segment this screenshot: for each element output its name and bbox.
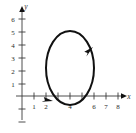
- x-axis-label: x: [126, 92, 131, 101]
- y-tick-label-1: 1: [11, 81, 15, 89]
- x-tick-label-1: 1: [32, 103, 36, 111]
- y-tick-label-4: 4: [11, 42, 15, 50]
- x-tick-label-6: 6: [92, 103, 96, 111]
- y-axis-label: y: [23, 2, 28, 11]
- y-tick-labels-group: 1 2 3 4 5 6: [11, 16, 15, 89]
- x-tick-label-8: 8: [116, 103, 120, 111]
- x-tick-label-2: 2: [44, 103, 48, 111]
- y-tick-label-2: 2: [11, 68, 15, 76]
- x-tick-label-7: 7: [104, 103, 108, 111]
- parametric-curve-group: [42, 31, 94, 105]
- y-tick-label-5: 5: [11, 29, 15, 37]
- x-axis-arrowhead: [121, 93, 127, 99]
- y-tick-label-3: 3: [11, 55, 15, 63]
- curve-direction-arrow-lower-left: [42, 97, 53, 102]
- figure-container: ): [0, 0, 136, 133]
- plot-canvas: 1 2 4 6 7 8 1 2 3 4 5 6 x y: [0, 0, 136, 133]
- y-tick-label-6: 6: [11, 16, 15, 24]
